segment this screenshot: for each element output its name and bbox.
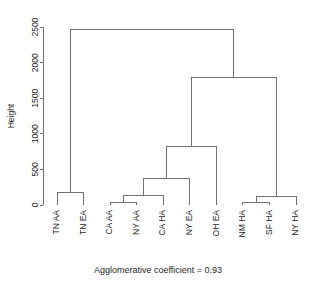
leaf-label-ny-ha: NY HA: [290, 210, 300, 236]
plot-caption: Agglomerative coefficient = 0.93: [94, 265, 222, 275]
dendrogram-link: [57, 193, 84, 205]
y-axis-tick-label: 1500: [30, 89, 40, 108]
dendrogram-link: [243, 203, 270, 205]
leaf-label-nm-ha: NM HA: [237, 210, 247, 238]
y-axis: 05001000150020002500: [30, 17, 43, 207]
axis-title-group: Height: [6, 103, 16, 128]
y-axis-tick-label: 2500: [30, 17, 40, 36]
dendrogram-link: [143, 179, 189, 205]
dendrogram-link: [191, 78, 276, 196]
y-axis-tick-label: 2000: [30, 53, 40, 72]
dendrogram-tree: [57, 30, 296, 205]
leaf-labels: TN AATN EACA AANY AACA HANY EAOH EANM HA…: [51, 210, 300, 238]
dendrogram-link: [70, 30, 233, 193]
y-axis-tick-label: 500: [30, 162, 40, 176]
leaf-label-ca-ha: CA HA: [157, 210, 167, 236]
dendrogram-link: [110, 203, 137, 205]
leaf-label-ca-aa: CA AA: [104, 210, 114, 235]
y-axis-title: Height: [6, 103, 16, 128]
dendrogram-link: [123, 196, 163, 205]
leaf-label-ny-aa: NY AA: [131, 210, 141, 235]
leaf-label-oh-ea: OH EA: [211, 210, 221, 237]
y-axis-tick-label: 1000: [30, 124, 40, 143]
leaf-label-ny-ea: NY EA: [184, 210, 194, 236]
plot-caption-group: Agglomerative coefficient = 0.93: [94, 265, 222, 275]
dendrogram-link: [256, 196, 296, 205]
leaf-label-sf-ha: SF HA: [264, 210, 274, 235]
y-axis-tick-label: 0: [30, 202, 40, 207]
dendrogram-svg: 05001000150020002500 TN AATN EACA AANY A…: [0, 0, 316, 287]
dendrogram-link: [167, 147, 217, 205]
leaf-label-tn-ea: TN EA: [78, 210, 88, 235]
leaf-label-tn-aa: TN AA: [51, 210, 61, 235]
dendrogram-plot: 05001000150020002500 TN AATN EACA AANY A…: [0, 0, 316, 287]
